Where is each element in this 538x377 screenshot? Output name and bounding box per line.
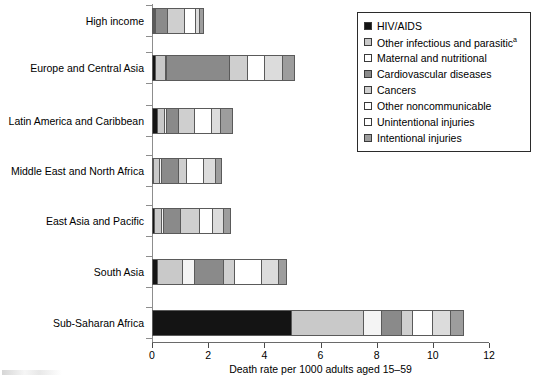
x-tick <box>152 343 153 348</box>
bar-segment <box>164 208 181 234</box>
bar-segment <box>221 108 233 134</box>
bar-segment <box>279 259 286 285</box>
legend-item: Other infectious and parasitica <box>364 34 524 50</box>
legend-label: Cancers <box>377 84 416 96</box>
y-tick <box>146 83 152 84</box>
bar-segment <box>183 259 194 285</box>
legend-item: Unintentional injuries <box>364 114 524 130</box>
legend-item: HIV/AIDS <box>364 18 524 34</box>
x-tick <box>208 343 209 348</box>
legend-label: Maternal and nutritional <box>377 52 487 64</box>
bar-segment <box>195 259 224 285</box>
bar-segment <box>283 55 296 81</box>
x-tick <box>377 343 378 348</box>
y-tick <box>146 105 152 106</box>
bar-segment <box>179 158 187 184</box>
legend-swatch-icon <box>364 134 372 142</box>
bar-segment <box>156 8 167 34</box>
bar-segment <box>158 108 165 134</box>
x-axis-title: Death rate per 1000 adults aged 15–59 <box>152 363 489 375</box>
stacked-bar <box>152 8 204 34</box>
stacked-bar <box>152 259 287 285</box>
bar-segment <box>200 208 213 234</box>
bar-segment <box>204 158 216 184</box>
x-tick <box>321 343 322 348</box>
stacked-bar <box>152 158 222 184</box>
bar-segment <box>413 310 433 336</box>
legend-item: Cancers <box>364 82 524 98</box>
legend-label: Other noncommunicable <box>377 100 491 112</box>
y-tick <box>146 52 152 53</box>
category-label: East Asia and Pacific <box>46 208 144 234</box>
legend-label: Intentional injuries <box>377 132 462 144</box>
x-tick-label: 6 <box>318 349 324 361</box>
bar-segment <box>181 208 200 234</box>
stacked-bar <box>152 208 231 234</box>
bar-segment <box>451 310 464 336</box>
bar-segment <box>216 158 222 184</box>
scan-artifact <box>2 370 62 375</box>
x-tick-label: 8 <box>374 349 380 361</box>
category-label: High income <box>86 8 144 34</box>
bar-segment <box>230 55 247 81</box>
bar-segment <box>168 8 185 34</box>
y-tick <box>146 155 152 156</box>
category-label: Latin America and Caribbean <box>9 108 144 134</box>
x-tick <box>433 343 434 348</box>
y-tick <box>146 236 152 237</box>
y-tick <box>146 307 152 308</box>
bar-segment <box>167 55 230 81</box>
y-tick <box>146 5 152 6</box>
legend-label: Other infectious and parasitica <box>377 36 517 49</box>
bar-segment <box>292 310 364 336</box>
legend-swatch-icon <box>364 22 372 30</box>
y-tick <box>146 287 152 288</box>
bar-segment <box>402 310 413 336</box>
x-tick-label: 0 <box>149 349 155 361</box>
y-tick <box>146 136 152 137</box>
bar-segment <box>155 208 162 234</box>
bar-segment <box>213 208 224 234</box>
bar-segment <box>187 158 204 184</box>
category-label: South Asia <box>94 259 144 285</box>
x-tick-label: 12 <box>483 349 495 361</box>
chart-figure: High incomeEurope and Central AsiaLatin … <box>0 0 538 377</box>
legend-swatch-icon <box>364 118 372 126</box>
y-tick <box>146 205 152 206</box>
legend-swatch-icon <box>364 86 372 94</box>
bar-segment <box>200 8 205 34</box>
legend-label: HIV/AIDS <box>377 20 422 32</box>
legend-swatch-icon <box>364 38 372 46</box>
legend-swatch-icon <box>364 70 372 78</box>
legend-footnote-marker: a <box>513 36 517 43</box>
bar-segment <box>185 8 196 34</box>
legend-item: Cardiovascular diseases <box>364 66 524 82</box>
bar-segment <box>433 310 450 336</box>
y-tick <box>146 186 152 187</box>
y-tick <box>146 36 152 37</box>
bar-segment <box>156 55 166 81</box>
bar-segment <box>235 259 262 285</box>
legend-label: Cardiovascular diseases <box>377 68 491 80</box>
bar-segment <box>152 310 292 336</box>
bar-segment <box>382 310 402 336</box>
category-label: Sub-Saharan Africa <box>53 310 144 336</box>
bar-segment <box>162 158 179 184</box>
x-tick-label: 10 <box>427 349 439 361</box>
bar-segment <box>195 108 212 134</box>
legend-swatch-icon <box>364 102 372 110</box>
legend-item: Other noncommunicable <box>364 98 524 114</box>
category-label: Europe and Central Asia <box>30 55 144 81</box>
stacked-bar <box>152 108 233 134</box>
legend-swatch-icon <box>364 54 372 62</box>
bar-segment <box>158 259 183 285</box>
stacked-bar <box>152 310 464 336</box>
x-tick <box>489 343 490 348</box>
legend-label: Unintentional injuries <box>377 116 474 128</box>
bar-segment <box>248 55 265 81</box>
chart-legend: HIV/AIDSOther infectious and parasiticaM… <box>357 12 531 152</box>
category-label: Middle East and North Africa <box>11 158 144 184</box>
bar-segment <box>167 108 180 134</box>
x-tick-label: 2 <box>205 349 211 361</box>
x-tick <box>264 343 265 348</box>
